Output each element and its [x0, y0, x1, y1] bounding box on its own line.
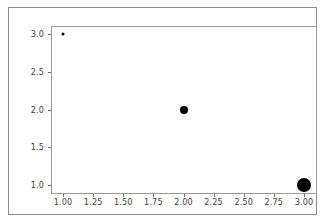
x-tick-label: 2.50 — [234, 198, 253, 207]
x-tick — [63, 194, 64, 197]
x-tick-label: 3.00 — [295, 198, 314, 207]
plot-axes-area: 1.001.251.501.752.002.252.502.753.00 1.0… — [51, 26, 317, 194]
x-tick-label: 2.00 — [174, 198, 193, 207]
x-tick — [274, 194, 275, 197]
y-tick-label: 2.0 — [31, 105, 44, 114]
y-tick-label: 2.5 — [31, 67, 44, 76]
y-tick — [48, 34, 51, 35]
axis-spine-top — [51, 26, 317, 27]
x-tick-label: 1.75 — [144, 198, 163, 207]
y-tick-label: 1.5 — [31, 143, 44, 152]
y-tick — [48, 185, 51, 186]
x-tick — [184, 194, 185, 197]
x-tick — [93, 194, 94, 197]
axis-spine-left — [51, 26, 52, 194]
x-tick-label: 1.00 — [54, 198, 73, 207]
x-tick-label: 2.25 — [204, 198, 223, 207]
x-tick — [123, 194, 124, 197]
y-tick-label: 1.0 — [31, 181, 44, 190]
x-tick-label: 2.75 — [265, 198, 284, 207]
x-tick — [304, 194, 305, 197]
figure-canvas: 1.001.251.501.752.002.252.502.753.00 1.0… — [0, 0, 325, 223]
y-tick-label: 3.0 — [31, 29, 44, 38]
y-tick — [48, 110, 51, 111]
axis-spine-right — [316, 26, 317, 194]
x-tick — [153, 194, 154, 197]
y-tick — [48, 147, 51, 148]
y-tick — [48, 72, 51, 73]
x-tick-label: 1.25 — [84, 198, 103, 207]
scatter-point — [297, 178, 311, 192]
x-tick — [214, 194, 215, 197]
scatter-point — [62, 32, 65, 35]
figure-border: 1.001.251.501.752.002.252.502.753.00 1.0… — [8, 7, 317, 215]
x-tick — [244, 194, 245, 197]
scatter-point — [180, 106, 188, 114]
x-tick-label: 1.50 — [114, 198, 133, 207]
